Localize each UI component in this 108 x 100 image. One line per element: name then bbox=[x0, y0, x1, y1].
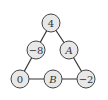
node-bottom-middle: B bbox=[44, 70, 62, 88]
node-bottom-left: 0 bbox=[11, 70, 29, 88]
node-bottom-right: −2 bbox=[77, 70, 95, 88]
node-mid-left: −8 bbox=[27, 41, 45, 59]
number-triangle-diagram: 4 −8 A 0 B −2 bbox=[0, 0, 108, 100]
node-mid-right: A bbox=[60, 41, 78, 59]
node-label: −2 bbox=[79, 74, 94, 85]
node-label: B bbox=[48, 74, 56, 85]
node-label: 0 bbox=[17, 74, 23, 85]
node-label: A bbox=[64, 45, 72, 56]
node-label: 4 bbox=[48, 18, 54, 29]
node-label: −8 bbox=[29, 45, 44, 56]
node-top: 4 bbox=[42, 14, 60, 32]
